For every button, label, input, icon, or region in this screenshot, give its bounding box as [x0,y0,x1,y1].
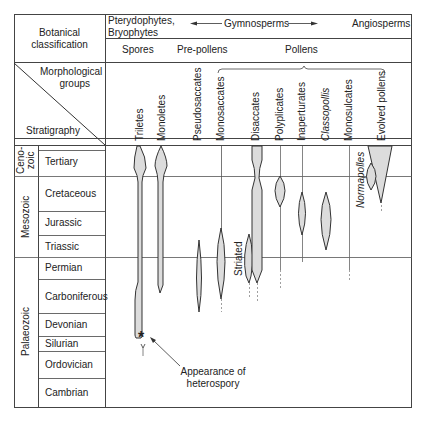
group-label-monosaccates: Monosaccates [215,77,227,141]
pterydophytes-line2: Bryophytes [108,27,175,39]
ceno-line2: zoic [26,147,36,174]
era-label-palaeozoic: Palaeozoic [20,307,32,356]
group-label-evolved-pollens: Evolved pollens [376,71,388,141]
period-permian: Permian [45,262,82,274]
period-ordovician: Ordovician [45,359,93,371]
period-triassic: Triassic [45,241,79,253]
monosaccates-range [217,228,225,299]
pterydophytes-line1: Pterydophytes, [108,15,175,27]
botanical-line1: Botanical [14,27,105,39]
period-carboniferous: Carboniferous [45,291,108,303]
botanical-line2: classification [14,39,105,51]
monoletes-range [155,146,167,293]
polyplicates-range [275,176,285,207]
group-label-monoletes: Monoletes [156,95,168,141]
botanical-classification-label: Botanical classification [14,27,105,51]
arrow-right-head-icon [311,22,318,26]
striated-disaccates-range [245,234,253,283]
morphological-groups-label: Morphological groups [40,66,102,90]
group-label-pseudosaccates: Pseudosaccates [192,68,204,141]
triletes-range [134,146,146,338]
era-label-cenozoic: Ceno- zoic [16,147,36,174]
spores-label: Spores [122,44,154,56]
pterydophytes-label: Pterydophytes, Bryophytes [108,15,175,39]
arrow-left-head-icon [190,22,197,26]
inaperturates-range [299,192,306,235]
group-label-polyplicates: Polyplicates [274,88,286,141]
period-silurian: Silurian [45,338,78,350]
pre-pollens-label: Pre-pollens [177,44,228,56]
period-cretaceous: Cretaceous [45,188,96,200]
morph-line1: Morphological [40,66,102,78]
angiosperms-label: Angiosperms [352,18,410,30]
group-label-classopollis: Classopollis [320,88,332,141]
heterospory-line2: heterospory [168,378,258,390]
morph-line2: groups [40,78,102,90]
gymnosperms-label: Gymnosperms [224,18,289,30]
period-jurassic: Jurassic [45,217,82,229]
heterospory-arrow [153,340,180,366]
group-label-monosulcates: Monosulcates [343,79,355,141]
heterospory-line1: Appearance of [168,366,258,378]
striated-label: Striated [233,242,245,276]
group-label-disaccates: Disaccates [250,92,262,141]
period-cambrian: Cambrian [45,387,88,399]
disaccates-range [252,146,262,283]
period-tertiary: Tertiary [45,156,78,168]
pollens-label: Pollens [285,44,318,56]
heterospory-star: * [138,332,144,344]
group-label-inaperturates: Inaperturates [296,82,308,141]
period-devonian: Devonian [45,319,87,331]
group-label-triletes: Triletes [134,109,146,141]
era-label-mesozoic: Mesozoic [20,196,32,238]
classopollis-range [321,192,331,250]
normapolles-label: Normapolles [355,152,367,208]
pseudosaccates-range [197,240,202,312]
pollens-brace [218,66,385,73]
stratigraphy-label: Stratigraphy [26,125,80,137]
heterospory-label: Appearance of heterospory [168,366,258,390]
